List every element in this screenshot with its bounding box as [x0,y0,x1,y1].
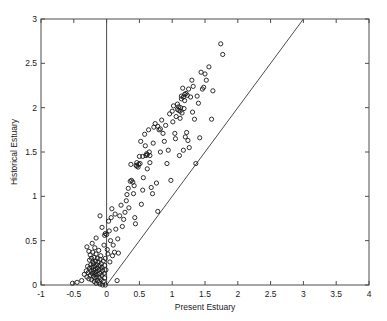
data-point [116,251,120,255]
data-point [123,210,127,214]
data-point [149,185,153,189]
data-point [191,84,195,88]
data-point [107,229,111,233]
data-point [100,225,104,229]
data-point [207,65,211,69]
data-point [186,138,190,142]
data-point [160,118,164,122]
data-point [124,199,128,203]
scatter-plot-figure: -1-0.500.511.522.533.54 00.511.522.53 Pr… [0,0,387,321]
data-point [85,245,89,249]
x-tick-label: 2 [235,290,240,299]
data-point [178,116,182,120]
x-tick-label: 3 [301,290,306,299]
data-point [133,216,137,220]
data-point [108,239,112,243]
y-tick-label: 0 [0,281,37,290]
y-axis-title: Historical Estuary [10,119,19,185]
data-point [211,89,215,93]
data-point [164,123,168,127]
data-point [198,136,202,140]
data-point [127,206,131,210]
data-point [114,227,118,231]
data-point [143,144,147,148]
x-tick-label: -0.5 [66,290,81,299]
data-point [156,209,160,213]
data-point [161,131,165,135]
y-tick-label: 2 [0,103,37,112]
data-point [80,278,84,282]
data-point [93,246,97,250]
y-tick-label: 0.5 [0,236,37,245]
data-point [143,132,147,136]
data-point [113,212,117,216]
data-point [170,109,174,113]
identity-line [107,19,304,285]
data-point [139,202,143,206]
data-point [125,192,129,196]
data-point [116,237,120,241]
data-points [70,42,224,287]
data-point [169,178,173,182]
data-point [190,78,194,82]
x-tick-label: 3.5 [330,290,342,299]
data-point [204,78,208,82]
data-point [150,192,154,196]
data-point [131,192,135,196]
data-point [190,110,194,114]
data-point [187,87,191,91]
data-point [115,278,119,282]
data-point [165,161,169,165]
data-point [105,247,109,251]
data-point [151,141,155,145]
data-point [219,42,223,46]
y-tick-label: 1 [0,192,37,201]
data-point [129,162,133,166]
data-point [158,127,162,131]
data-point [126,186,130,190]
data-point [187,145,191,149]
x-tick-label: 0 [104,290,109,299]
data-point [111,243,115,247]
x-tick-label: 1 [170,290,175,299]
x-tick-label: 1.5 [199,290,211,299]
y-tick-label: 3 [0,15,37,24]
plot-canvas [0,0,387,321]
data-point [173,137,177,141]
data-point [166,148,170,152]
data-point [196,101,200,105]
reference-lines [107,19,304,285]
data-point [158,150,162,154]
y-tick-label: 2.5 [0,59,37,68]
x-axis-title: Present Estuary [175,303,235,312]
data-point [122,217,126,221]
data-point [139,139,143,143]
data-point [145,167,149,171]
data-point [221,52,225,56]
data-point [148,161,152,165]
data-point [110,207,114,211]
x-tick-label: 4 [367,290,372,299]
data-point [102,243,106,247]
data-point [192,117,196,121]
data-point [120,224,124,228]
data-point [108,260,112,264]
data-point [119,203,123,207]
data-point [133,222,137,226]
data-point [162,139,166,143]
data-point [141,176,145,180]
data-point [171,120,175,124]
data-point [75,280,79,284]
data-point [177,153,181,157]
data-point [181,86,185,90]
data-point [109,216,113,220]
data-point [209,117,213,121]
data-point [94,236,98,240]
x-tick-label: 0.5 [133,290,145,299]
data-point [195,94,199,98]
x-tick-label: 2.5 [265,290,277,299]
data-point [97,248,101,252]
data-point [90,241,94,245]
data-point [154,181,158,185]
data-point [203,72,207,76]
